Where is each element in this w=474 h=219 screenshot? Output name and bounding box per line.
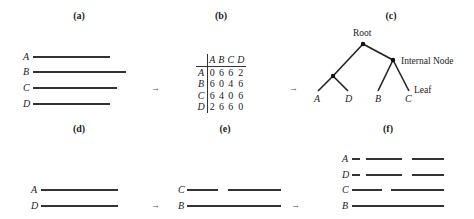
leaf-b: B: [375, 93, 381, 104]
root-node: [361, 42, 365, 46]
final-line-a-part2: [366, 158, 402, 160]
sequence-label-c: C: [178, 185, 185, 195]
sequence-label-d: D: [31, 201, 38, 211]
final-line-d-part2: [366, 174, 402, 176]
guide-tree: Root Internal Node Leaf A D B C: [0, 0, 474, 219]
arrow-d-to-e: →: [151, 200, 160, 210]
sequence-label-b: B: [342, 201, 348, 211]
edge-root-internal: [363, 44, 393, 60]
internal-node-label: Internal Node: [401, 56, 454, 66]
edge-leaf-d: [333, 76, 348, 91]
leaf-label: Leaf: [414, 85, 432, 95]
edge-leaf-b: [378, 60, 393, 91]
final-line-d-part3: [412, 174, 444, 176]
internal-node-left: [331, 74, 335, 78]
internal-node: [391, 58, 395, 62]
tree-edges: [318, 44, 409, 91]
aligned-line-b: [187, 205, 281, 207]
edge-root-subtree: [333, 44, 363, 76]
sequence-label-b: B: [178, 201, 184, 211]
aligned-line-d: [41, 205, 118, 207]
sequence-label-d: D: [342, 170, 349, 180]
leaf-d: D: [344, 93, 353, 104]
aligned-line-c-part1: [187, 189, 218, 191]
leaf-a: A: [313, 93, 321, 104]
arrow-e-to-f: →: [291, 200, 300, 210]
final-line-a-part3: [412, 158, 444, 160]
final-line-c-part2: [391, 189, 444, 191]
edge-leaf-a: [318, 76, 333, 91]
root-label: Root: [353, 28, 372, 38]
final-line-c-part1: [352, 189, 382, 191]
sequence-label-c: C: [342, 185, 349, 195]
aligned-line-a: [41, 189, 118, 191]
aligned-line-c-part2: [228, 189, 281, 191]
sequence-label-a: A: [31, 185, 37, 195]
final-line-a-part1: [352, 158, 360, 160]
sequence-label-a: A: [342, 154, 348, 164]
final-line-d-part1: [352, 174, 360, 176]
leaf-c: C: [405, 93, 412, 104]
final-line-b: [352, 205, 444, 207]
